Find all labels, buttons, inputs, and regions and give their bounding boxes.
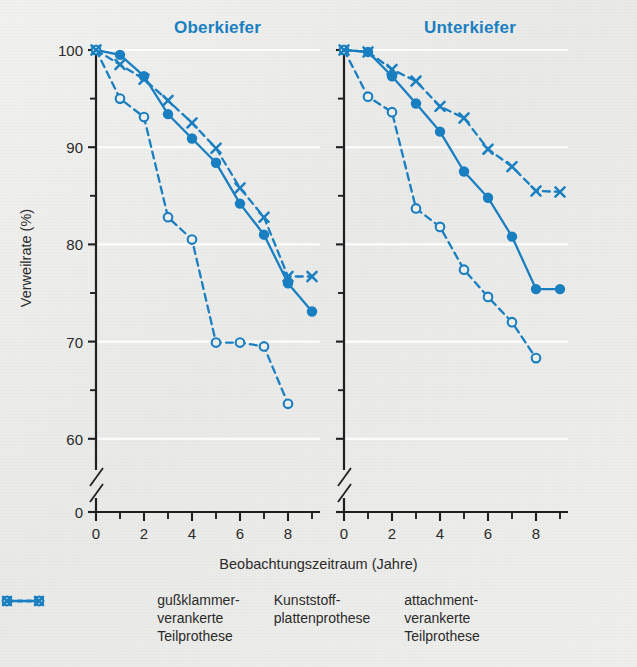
data-point-2-7-panel-0 <box>259 213 268 222</box>
data-point-1-8-panel-1 <box>532 354 541 363</box>
axis-break-mark-a-0 <box>90 468 103 486</box>
data-point-2-3-panel-0 <box>163 96 172 105</box>
data-point-0-7-panel-0 <box>259 229 269 239</box>
x-tick-label-6-0: 6 <box>236 525 244 542</box>
data-point-1-6-panel-1 <box>484 293 493 302</box>
series-line-2-panel-0 <box>96 50 312 277</box>
y-tick-label-70: 70 <box>66 334 83 351</box>
x-tick-label-8-0: 8 <box>284 525 292 542</box>
data-point-0-3-panel-0 <box>163 109 173 119</box>
chart-legend: gußklammer- verankerte Teilprothese Kuns… <box>0 592 637 646</box>
data-point-0-6-panel-1 <box>483 193 493 203</box>
data-point-2-8-panel-1 <box>531 186 540 195</box>
data-point-1-2-panel-1 <box>388 108 397 117</box>
data-point-1-5-panel-0 <box>212 338 221 347</box>
data-point-1-1-panel-1 <box>364 92 373 101</box>
y-tick-label-80: 80 <box>66 236 83 253</box>
data-point-1-5-panel-1 <box>460 265 469 274</box>
x-tick-label-6-1: 6 <box>484 525 492 542</box>
data-point-0-5-panel-1 <box>459 166 469 176</box>
data-point-2-4-panel-0 <box>187 118 196 127</box>
legend-item-gussklammer: gußklammer- verankerte Teilprothese <box>157 592 239 646</box>
x-tick-label-0-1: 0 <box>340 525 348 542</box>
y-tick-label-90: 90 <box>66 139 83 156</box>
x-tick-label-8-1: 8 <box>532 525 540 542</box>
data-point-0-1-panel-0 <box>115 50 125 60</box>
chart-canvas: 1009080706000246802468 <box>0 0 637 667</box>
data-point-1-3-panel-0 <box>164 213 173 222</box>
series-line-0-panel-1 <box>344 50 560 289</box>
axis-break-mark-a-1 <box>338 468 351 486</box>
legend-item-kunststoff: Kunststoff- plattenprothese <box>274 592 371 646</box>
data-point-0-4-panel-1 <box>435 126 445 136</box>
data-point-0-4-panel-0 <box>187 133 197 143</box>
data-point-1-8-panel-0 <box>284 400 293 409</box>
y-tick-label-100: 100 <box>58 42 83 59</box>
x-tick-label-2-0: 2 <box>140 525 148 542</box>
data-point-1-2-panel-0 <box>140 113 149 122</box>
x-tick-label-4-1: 4 <box>436 525 444 542</box>
data-point-1-7-panel-1 <box>508 318 517 327</box>
cross-dashed-line-icon <box>0 594 46 608</box>
data-point-2-7-panel-1 <box>507 162 516 171</box>
x-tick-label-0-0: 0 <box>92 525 100 542</box>
data-point-1-7-panel-0 <box>260 342 269 351</box>
legend-item-attachment: attachment- verankerte Teilprothese <box>404 592 480 646</box>
data-point-1-4-panel-1 <box>436 223 445 232</box>
data-point-1-6-panel-0 <box>236 338 245 347</box>
data-point-0-6-panel-0 <box>235 198 245 208</box>
series-line-2-panel-1 <box>344 50 560 192</box>
legend-label-0: gußklammer- verankerte Teilprothese <box>157 592 239 646</box>
data-point-2-5-panel-1 <box>459 113 468 122</box>
y-tick-label-0: 0 <box>75 504 83 521</box>
data-point-1-3-panel-1 <box>412 204 421 213</box>
data-point-0-9-panel-0 <box>307 306 317 316</box>
x-tick-label-4-0: 4 <box>188 525 196 542</box>
data-point-2-6-panel-1 <box>483 145 492 154</box>
data-point-1-4-panel-0 <box>188 235 197 244</box>
y-tick-label-60: 60 <box>66 431 83 448</box>
data-point-0-9-panel-1 <box>555 284 565 294</box>
data-point-0-5-panel-0 <box>211 158 221 168</box>
data-point-2-3-panel-1 <box>411 77 420 86</box>
data-point-2-1-panel-0 <box>115 60 124 69</box>
x-tick-label-2-1: 2 <box>388 525 396 542</box>
data-point-0-7-panel-1 <box>507 231 517 241</box>
data-point-2-4-panel-1 <box>435 102 444 111</box>
data-point-0-8-panel-1 <box>531 284 541 294</box>
data-point-1-1-panel-0 <box>116 94 125 103</box>
legend-label-2: attachment- verankerte Teilprothese <box>404 592 480 646</box>
data-point-2-6-panel-0 <box>235 183 244 192</box>
legend-label-1: Kunststoff- plattenprothese <box>274 592 371 628</box>
data-point-0-3-panel-1 <box>411 98 421 108</box>
series-line-0-panel-0 <box>96 50 312 312</box>
